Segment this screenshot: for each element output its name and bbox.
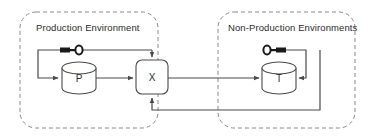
diagram-canvas: Production Environment Non-Production En… xyxy=(0,0,381,139)
key-icon-ring xyxy=(75,46,82,55)
node-x-process[interactable]: X xyxy=(136,60,168,94)
key-icon-shaft xyxy=(270,49,276,51)
zone-production-label: Production Environment xyxy=(36,22,140,33)
key-icon-teeth xyxy=(60,48,70,53)
t-database-label: T xyxy=(276,73,282,84)
node-p-database[interactable]: P xyxy=(62,62,96,94)
node-t-database[interactable]: T xyxy=(262,62,296,94)
data-flow-diagram: Production Environment Non-Production En… xyxy=(0,0,381,139)
key-icon-teeth xyxy=(276,48,286,53)
key-icon-ring xyxy=(263,46,270,55)
key-icon xyxy=(60,46,83,55)
zone-non-production-label: Non-Production Environments xyxy=(228,22,358,33)
x-process-label: X xyxy=(149,72,156,83)
p-database-label: P xyxy=(76,73,83,84)
key-icon xyxy=(263,46,286,55)
